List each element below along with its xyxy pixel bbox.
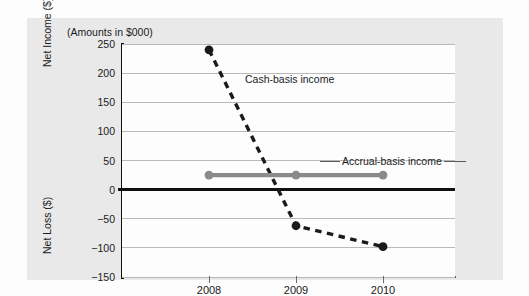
chart-figure-card: (Amounts in $000) Net Income ($) Net Los…: [27, 18, 503, 280]
x-axis-tick-label: 2008: [197, 284, 221, 296]
y-axis-tick-label: 100: [97, 125, 115, 137]
data-point-marker: [292, 171, 301, 180]
chart-caption: (Amounts in $000): [67, 26, 153, 38]
annotation-cash-basis-income: Cash-basis income: [245, 73, 334, 85]
y-axis-tick-label: −50: [97, 213, 115, 225]
data-point-marker: [379, 242, 388, 251]
annotation-leader-left: [320, 161, 340, 162]
y-axis-title-net-loss: Net Loss ($): [41, 197, 53, 254]
y-axis-tick-label: 50: [103, 155, 115, 167]
data-point-marker: [205, 45, 214, 54]
y-axis-tick-label: −150: [91, 271, 115, 283]
x-axis-tick-mark: [296, 276, 297, 283]
annotation-accrual-basis-income: Accrual-basis income: [342, 155, 442, 167]
y-axis-tick-label: 0: [109, 184, 115, 196]
x-axis-tick-label: 2009: [284, 284, 308, 296]
data-point-marker: [292, 221, 301, 230]
data-point-marker: [205, 171, 214, 180]
annotation-leader-right: [444, 161, 466, 162]
y-axis-tick-label: 150: [97, 96, 115, 108]
y-axis-tick-label: 200: [97, 67, 115, 79]
x-axis-tick-mark: [383, 276, 384, 283]
y-axis-tick-label: 250: [97, 38, 115, 50]
data-point-marker: [379, 171, 388, 180]
y-axis-tick-label: −100: [91, 242, 115, 254]
x-axis-tick-label: 2010: [371, 284, 395, 296]
y-axis-title-net-income: Net Income ($): [41, 0, 53, 67]
x-axis-tick-mark: [209, 276, 210, 283]
y-axis-tick-labels: 250200150100500−50−100−150: [55, 44, 115, 277]
screenshot-root: (Amounts in $000) Net Income ($) Net Los…: [0, 0, 529, 296]
